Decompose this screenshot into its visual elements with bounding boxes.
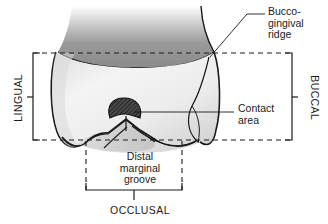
label-bucco-gingival-ridge: Bucco- gingival ridge xyxy=(268,6,304,41)
label-contact-area: Contact area xyxy=(238,103,274,126)
buccal-bracket xyxy=(285,53,298,140)
tooth-root-area xyxy=(58,6,214,68)
leader-bucco-gingival-ridge xyxy=(210,14,265,57)
label-lingual: LINGUAL xyxy=(13,70,25,126)
dental-anatomy-figure: Bucco- gingival ridge Contact area Dista… xyxy=(0,0,328,224)
occlusal-bracket xyxy=(86,183,182,200)
label-buccal: BUCCAL xyxy=(308,70,320,126)
label-distal-marginal-groove: Distal marginal groove xyxy=(103,151,177,186)
label-occlusal: OCCLUSAL xyxy=(93,205,187,217)
lingual-bracket xyxy=(27,53,40,140)
